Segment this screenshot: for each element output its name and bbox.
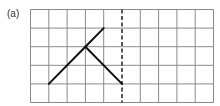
grid-diagram bbox=[0, 0, 220, 106]
shape-segment bbox=[85, 28, 103, 47]
